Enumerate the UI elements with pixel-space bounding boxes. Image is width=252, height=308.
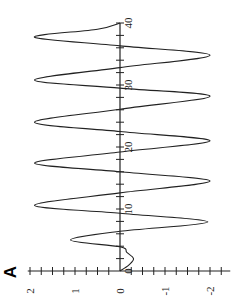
rotated-line-chart: 010203040210-1-2 A <box>0 0 252 308</box>
value-tick-label: 2 <box>24 288 36 294</box>
panel-label: A <box>1 266 20 278</box>
value-tick-label: -1 <box>159 286 171 295</box>
time-tick-label: 10 <box>122 203 134 215</box>
value-tick-label: -2 <box>204 286 216 295</box>
time-tick-label: 40 <box>122 17 134 29</box>
value-tick-label: 1 <box>69 288 81 294</box>
value-tick-label: 0 <box>114 288 126 294</box>
